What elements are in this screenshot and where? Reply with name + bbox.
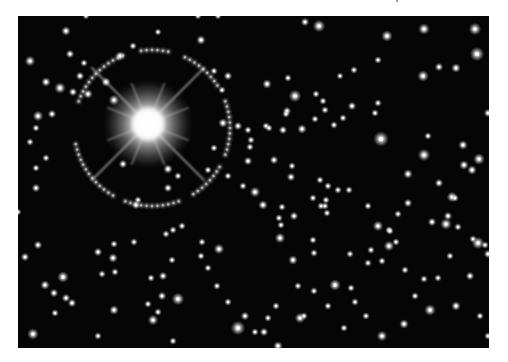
starfield-photo (18, 16, 489, 348)
stars (18, 16, 489, 348)
top-speck (396, 0, 398, 2)
starfield-canvas (18, 16, 489, 348)
